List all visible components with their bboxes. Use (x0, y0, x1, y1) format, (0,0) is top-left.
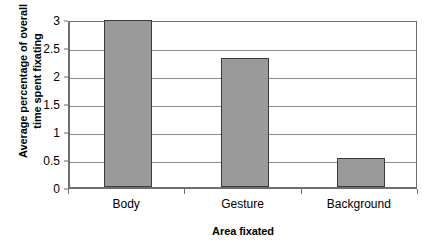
bars (70, 22, 416, 187)
x-axis-tick-mark (184, 189, 185, 194)
bar (337, 158, 385, 187)
bar (104, 20, 152, 187)
plot-area (68, 21, 417, 189)
x-axis-tick-label: Background (327, 196, 391, 212)
x-axis-tick-marks (68, 189, 418, 194)
y-axis-tick-label: 0 (53, 183, 60, 195)
y-axis-tick-label: 2 (53, 71, 60, 83)
x-axis-tick-label: Gesture (221, 196, 264, 212)
y-axis-tick-label: 1.5 (43, 99, 60, 111)
bar-chart: Average percentage of overall time spent… (0, 0, 432, 248)
y-axis-tick-labels: 00.511.522.53 (36, 21, 64, 189)
x-axis-tick-mark (68, 189, 69, 194)
bar (221, 58, 269, 187)
x-axis-title: Area fixated (68, 224, 418, 238)
y-axis-tick-label: 1 (53, 127, 60, 139)
x-axis-tick-mark (417, 189, 418, 194)
y-axis-title-line-1: Average percentage of overall (16, 4, 30, 158)
x-axis-tick-mark (301, 189, 302, 194)
x-axis-tick-label: Body (112, 196, 139, 212)
x-axis-tick-labels: BodyGestureBackground (68, 196, 418, 214)
y-axis-tick-label: 3 (53, 15, 60, 27)
y-axis-tick-label: 2.5 (43, 43, 60, 55)
y-axis-tick-label: 0.5 (43, 155, 60, 167)
